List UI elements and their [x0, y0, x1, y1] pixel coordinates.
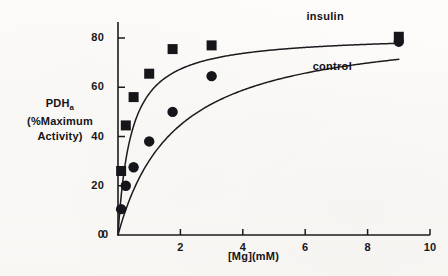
data-point-control — [167, 107, 177, 117]
x-axis-tick-label: 2 — [166, 241, 194, 253]
series-curve-insulin — [118, 43, 399, 235]
y-axis-title-percent-maximum: %Maximum — [31, 115, 93, 127]
data-point-control — [144, 136, 154, 146]
data-point-control — [128, 162, 138, 172]
y-axis-tick-label: 0 — [0, 228, 104, 240]
figure-screenshot: PDHa (%Maximum Activity) [Mg](mM) 020406… — [0, 0, 448, 276]
series-label-control: control — [313, 60, 352, 72]
y-axis-tick-label: 60 — [0, 80, 104, 92]
y-axis-tick-label: 40 — [0, 130, 104, 142]
data-point-control — [394, 36, 404, 46]
curves-group — [118, 43, 399, 235]
data-point-insulin — [144, 69, 154, 79]
data-point-control — [116, 204, 126, 214]
x-axis-tick-label: 0 — [102, 228, 108, 240]
data-point-insulin — [207, 40, 217, 50]
x-axis-tick-label: 8 — [354, 241, 382, 253]
x-axis-tick-label: 10 — [416, 241, 444, 253]
data-point-insulin — [129, 92, 139, 102]
data-point-insulin — [121, 120, 131, 130]
y-axis-title-subscript: a — [70, 103, 75, 112]
y-axis-tick-label: 20 — [0, 179, 104, 191]
series-curve-control — [118, 59, 399, 235]
series-label-insulin: insulin — [306, 10, 344, 22]
data-point-insulin — [116, 166, 126, 176]
x-axis-tick-label: 4 — [229, 241, 257, 253]
y-axis-tick-label: 80 — [0, 31, 104, 43]
data-point-insulin — [168, 44, 178, 54]
axes-group — [118, 22, 430, 235]
markers-group — [116, 32, 404, 215]
data-point-control — [121, 181, 131, 191]
x-axis-tick-label: 6 — [291, 241, 319, 253]
data-point-control — [206, 71, 216, 81]
y-axis-title-main: PDH — [46, 97, 70, 109]
